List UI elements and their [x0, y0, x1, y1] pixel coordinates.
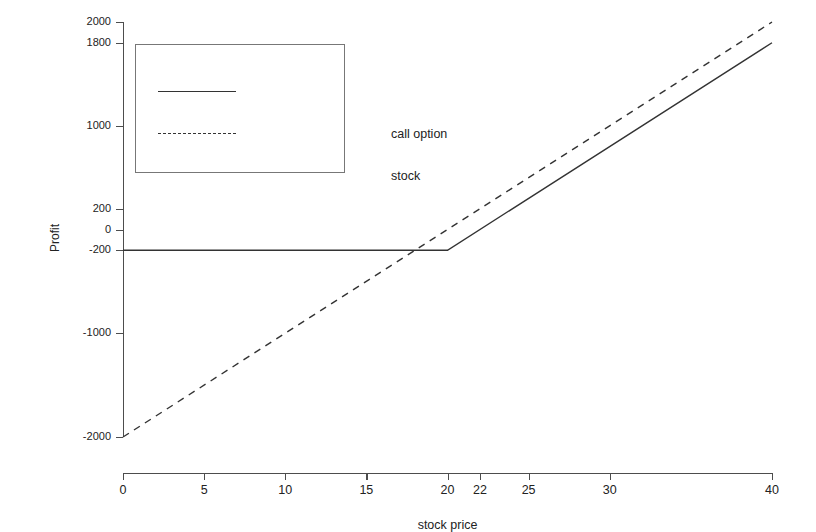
legend-swatch-dashed-line	[158, 133, 236, 136]
legend-label-call-option: call option	[391, 127, 447, 141]
legend-swatch-solid-line	[158, 91, 236, 94]
legend-item-stock[interactable]	[158, 133, 236, 136]
legend-item-call-option[interactable]	[158, 91, 236, 94]
legend-label-stock: stock	[391, 169, 420, 183]
legend-box: call option stock	[135, 44, 345, 173]
